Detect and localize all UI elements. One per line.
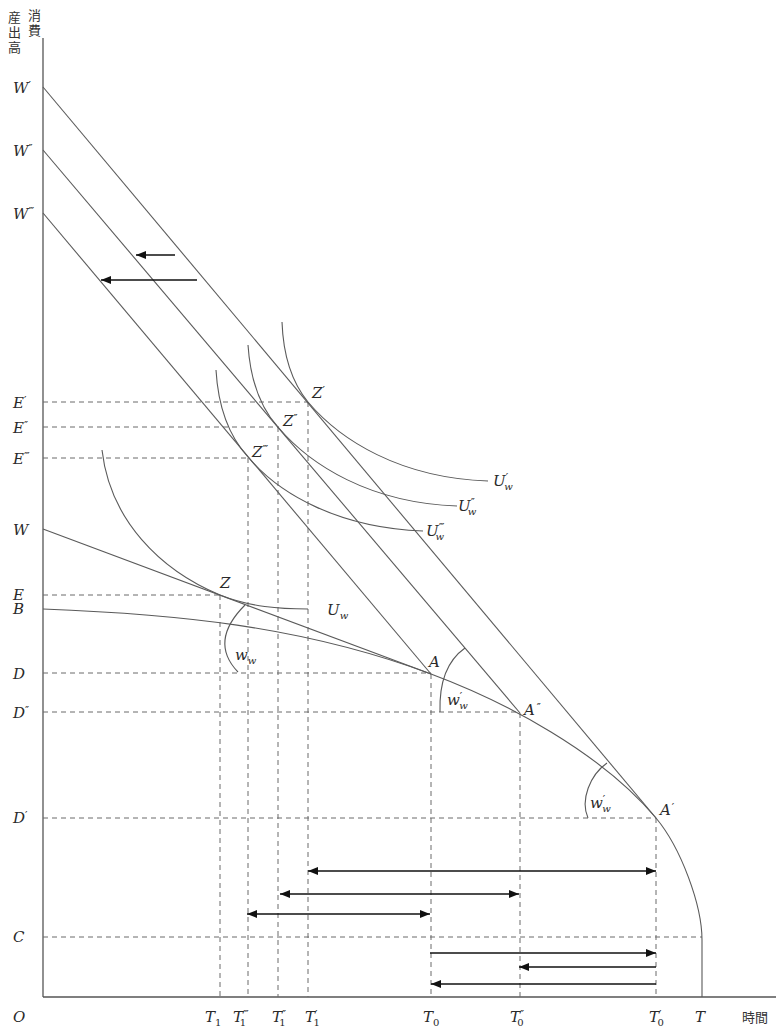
curve-label-u-triple-prime-w: U‴w bbox=[426, 521, 445, 542]
y-title-char: 産 bbox=[8, 10, 21, 25]
x-label-t1: T1 bbox=[205, 1008, 221, 1028]
y-label-w: W bbox=[13, 521, 30, 539]
y-label-d: D bbox=[12, 665, 25, 683]
point-label-a-prime: A′ bbox=[658, 801, 675, 819]
y-label-w-double-prime: W″ bbox=[13, 142, 33, 160]
curve-labels: U′w U″w U‴w Uw bbox=[327, 471, 513, 621]
x-label-t: T bbox=[695, 1008, 706, 1026]
x-label-t0-prime: T′0 bbox=[649, 1008, 664, 1028]
horizontal-guides bbox=[43, 402, 702, 937]
wage-lines bbox=[43, 87, 656, 818]
line-w-prime bbox=[43, 87, 656, 818]
point-label-z-prime: Z′ bbox=[311, 384, 325, 402]
y-axis-title: 産 出 高 消 費 bbox=[8, 8, 41, 55]
curve-label-u-prime-w: U′w bbox=[493, 471, 513, 492]
economics-diagram: 産 出 高 消 費 bbox=[0, 0, 784, 1029]
vertical-guides bbox=[220, 402, 656, 997]
y-label-w-triple-prime: W‴ bbox=[13, 205, 34, 223]
point-label-z-triple-prime: Z‴ bbox=[251, 443, 268, 461]
point-labels: Z′ Z″ Z‴ Z A A″ A′ bbox=[219, 384, 675, 819]
y-label-e-triple-prime: E‴ bbox=[12, 450, 30, 468]
y-title-char: 出 bbox=[8, 25, 21, 40]
angle-label-ww: ww bbox=[235, 646, 257, 666]
indifference-curves bbox=[102, 322, 488, 609]
y-title-char: 消 bbox=[28, 8, 41, 23]
point-label-a-double-prime: A″ bbox=[522, 701, 541, 719]
angle-label-ww-prime-a-prime: w′w bbox=[590, 793, 611, 814]
y-label-e-double-prime: E″ bbox=[12, 419, 28, 437]
y-label-w-prime: W′ bbox=[13, 79, 31, 97]
indifference-curve-u bbox=[102, 450, 308, 609]
x-axis-title: 時間 bbox=[742, 1010, 768, 1025]
x-label-t0: T0 bbox=[423, 1008, 439, 1028]
curve-label-u-double-prime-w: U″w bbox=[458, 496, 477, 517]
x-label-t1-double-prime: T″1 bbox=[272, 1008, 286, 1028]
angle-label-ww-prime-a: w′w bbox=[447, 690, 468, 711]
curve-label-u-w: Uw bbox=[327, 601, 349, 621]
point-label-a: A bbox=[427, 653, 440, 671]
point-label-z-double-prime: Z″ bbox=[282, 412, 298, 430]
y-title-char: 費 bbox=[28, 23, 41, 38]
y-label-d-prime: D′ bbox=[12, 809, 28, 827]
y-label-e-prime: E′ bbox=[12, 394, 27, 412]
point-label-z: Z bbox=[219, 574, 231, 592]
x-label-t1-triple-prime: T‴1 bbox=[233, 1008, 249, 1028]
x-label-t0-double-prime: T″0 bbox=[510, 1008, 524, 1028]
x-axis-labels: O T1 T‴1 T″1 T′1 T0 T″0 T′0 T 時間 bbox=[13, 1008, 768, 1028]
y-title-char: 高 bbox=[8, 40, 21, 55]
y-label-b: B bbox=[12, 600, 24, 618]
x-label-t1-prime: T′1 bbox=[305, 1008, 320, 1028]
shift-arrows bbox=[101, 255, 197, 280]
y-label-d-double-prime: D″ bbox=[12, 704, 29, 722]
origin-label: O bbox=[13, 1008, 25, 1026]
y-label-c: C bbox=[13, 928, 25, 946]
y-axis-labels: W′ W″ W‴ E′ E″ E‴ W E B D D″ D′ C bbox=[12, 79, 34, 946]
